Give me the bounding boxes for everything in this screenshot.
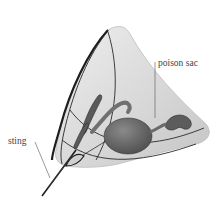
anatomy-drawing [0, 0, 224, 206]
sting-anatomy-figure: poison sac sting [0, 0, 224, 206]
sting-label: sting [8, 136, 26, 146]
sting-leader [35, 142, 50, 178]
poison-sac [104, 118, 152, 154]
poison-sac-label: poison sac [158, 58, 198, 68]
